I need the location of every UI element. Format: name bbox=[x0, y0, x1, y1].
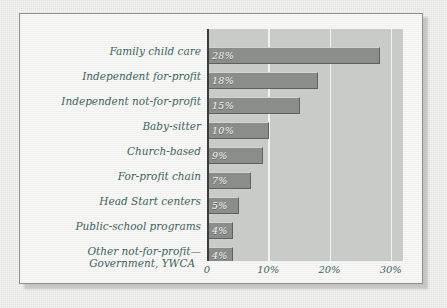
bar-value-label: 7% bbox=[212, 172, 228, 189]
category-label: Other not-for-profit—Government, YWCA bbox=[26, 246, 201, 269]
bar-value-label: 10% bbox=[212, 122, 234, 139]
bar-row[interactable]: 18% bbox=[207, 68, 403, 93]
category-label-line: Independent for-profit bbox=[82, 70, 201, 82]
category-label-line: Independent not-for-profit bbox=[61, 95, 201, 107]
category-label-line: Government, YWCA bbox=[26, 258, 201, 270]
x-tick-label: 20% bbox=[318, 264, 340, 275]
x-tick-label: 0 bbox=[204, 264, 210, 275]
category-label-line: For-profit chain bbox=[118, 170, 201, 182]
category-label-line: Church-based bbox=[127, 145, 201, 157]
category-label: Independent not-for-profit bbox=[26, 96, 201, 108]
value-axis-line bbox=[207, 29, 209, 261]
bar-chart-card: Family child careIndependent for-profitI… bbox=[19, 13, 423, 284]
plot-area: 28%18%15%10%9%7%5%4%4% bbox=[207, 29, 403, 261]
category-labels-column: Family child careIndependent for-profitI… bbox=[26, 29, 204, 261]
category-label: For-profit chain bbox=[26, 171, 201, 183]
category-label: Family child care bbox=[26, 46, 201, 58]
bar-value-label: 5% bbox=[212, 197, 228, 214]
category-label: Church-based bbox=[26, 146, 201, 158]
bar-row[interactable]: 15% bbox=[207, 93, 403, 118]
category-label-line: Other not-for-profit— bbox=[87, 245, 201, 257]
bar-row[interactable]: 4% bbox=[207, 243, 403, 261]
category-label-line: Public-school programs bbox=[76, 220, 201, 232]
category-label-line: Family child care bbox=[109, 45, 201, 57]
bar-row[interactable]: 9% bbox=[207, 143, 403, 168]
bar-value-label: 9% bbox=[212, 147, 228, 164]
bar-value-label: 4% bbox=[212, 222, 228, 239]
bar-value-label: 28% bbox=[212, 47, 234, 64]
bar-value-label: 4% bbox=[212, 247, 228, 261]
x-tick-label: 10% bbox=[257, 264, 279, 275]
bar-row[interactable]: 7% bbox=[207, 168, 403, 193]
category-label-line: Baby-sitter bbox=[142, 120, 201, 132]
x-tick-label: 30% bbox=[380, 264, 402, 275]
plot-wrapper: 28%18%15%10%9%7%5%4%4% bbox=[207, 29, 403, 261]
bar-row[interactable]: 5% bbox=[207, 193, 403, 218]
bar-row[interactable]: 10% bbox=[207, 118, 403, 143]
category-label: Public-school programs bbox=[26, 221, 201, 233]
category-label-line: Head Start centers bbox=[99, 195, 201, 207]
x-axis-tick-labels: 010%20%30% bbox=[207, 264, 417, 280]
bar-row[interactable]: 28% bbox=[207, 43, 403, 68]
category-label: Baby-sitter bbox=[26, 121, 201, 133]
category-label: Independent for-profit bbox=[26, 71, 201, 83]
bar-value-label: 18% bbox=[212, 72, 234, 89]
category-label: Head Start centers bbox=[26, 196, 201, 208]
page-root: Family child careIndependent for-profitI… bbox=[0, 0, 447, 308]
bar-row[interactable]: 4% bbox=[207, 218, 403, 243]
bar-value-label: 15% bbox=[212, 97, 234, 114]
